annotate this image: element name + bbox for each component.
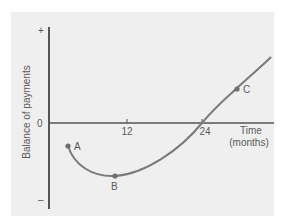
- point-c-label: C: [243, 84, 250, 95]
- y-plus-label: +: [38, 25, 44, 36]
- y-minus-label: –: [38, 194, 44, 205]
- y-zero-label: 0: [37, 118, 43, 129]
- point-b-label: B: [111, 181, 118, 192]
- y-axis-title: Balance of payments: [21, 65, 32, 158]
- x-axis-title-line2: (months): [229, 137, 268, 148]
- x-tick-label-12: 12: [121, 126, 133, 137]
- point-a-marker: [65, 143, 70, 148]
- balance-curve: [68, 57, 271, 176]
- point-b-marker: [112, 173, 117, 178]
- point-a-label: A: [74, 141, 81, 152]
- x-axis-title-line1: Time: [240, 125, 262, 136]
- x-tick-label-24: 24: [199, 126, 211, 137]
- j-curve-chart: A B C + 0 – 12 24 Time (months) Balance …: [0, 0, 294, 224]
- point-c-marker: [234, 86, 239, 91]
